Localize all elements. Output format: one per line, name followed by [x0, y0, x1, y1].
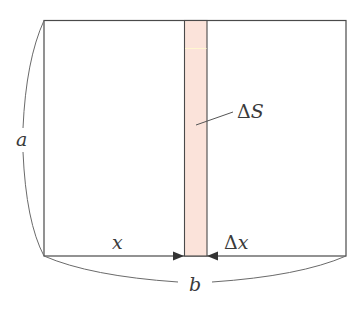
arrow-left-icon	[207, 252, 218, 261]
width-brace-right	[212, 256, 346, 282]
width-label: b	[189, 273, 201, 295]
x-label: x	[112, 231, 123, 253]
height-brace-bottom	[23, 152, 44, 256]
delta-s-label: ΔS	[237, 100, 264, 122]
area-diagram: ΔS x Δx a b	[0, 0, 364, 315]
height-label: a	[16, 128, 27, 150]
width-brace-left	[44, 256, 178, 282]
height-brace-top	[23, 21, 44, 129]
arrow-right-icon	[173, 252, 184, 261]
delta-s-strip	[185, 21, 208, 257]
delta-x-label: Δx	[224, 231, 249, 253]
